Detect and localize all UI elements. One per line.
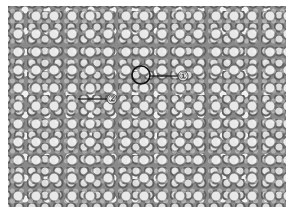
annotation-1: ① <box>132 66 188 84</box>
annotation-2: ② <box>78 94 117 104</box>
label-1: ① <box>179 71 187 81</box>
label-2: ② <box>108 94 116 104</box>
annotation-layer: ① ② <box>0 0 293 215</box>
highlight-circle <box>132 66 150 84</box>
